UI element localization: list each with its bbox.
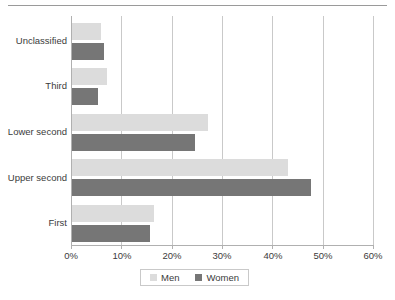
category-axis-labels: Unclassified Third Lower second Upper se… [0,16,67,245]
bar-women-third [72,88,98,105]
category-label-lower-second: Lower second [1,126,67,137]
tick-label-40: 40% [256,250,290,261]
bar-women-unclassified [72,43,104,60]
category-label-unclassified: Unclassified [1,35,67,46]
bar-men-first [72,205,154,222]
bar-chart-figure: Unclassified Third Lower second Upper se… [0,0,395,300]
tick-label-0: 0% [54,250,88,261]
tick-label-60: 60% [356,250,390,261]
tick-label-10: 10% [105,250,139,261]
gridline-40 [272,16,273,245]
legend-swatch-women-icon [195,274,202,281]
bar-women-first [72,225,150,242]
tick-mark-40 [272,245,273,249]
legend-label-women: Women [206,272,239,283]
plot-area [71,16,374,245]
bar-men-lower-second [72,114,208,131]
category-label-upper-second: Upper second [1,172,67,183]
tick-mark-20 [172,245,173,249]
bar-men-third [72,68,107,85]
gridline-50 [323,16,324,245]
tick-label-20: 20% [155,250,189,261]
bar-women-lower-second [72,134,195,151]
gridline-30 [222,16,223,245]
bar-men-upper-second [72,159,288,176]
gridline-60 [373,16,374,245]
legend-item-women: Women [195,272,239,283]
category-label-third: Third [1,80,67,91]
legend-swatch-men-icon [150,274,157,281]
bar-men-unclassified [72,23,101,40]
tick-mark-50 [323,245,324,249]
legend-item-men: Men [150,272,179,283]
bar-women-upper-second [72,179,311,196]
tick-label-50: 50% [306,250,340,261]
chart-legend: Men Women [140,269,249,286]
legend-label-men: Men [161,272,179,283]
header-divider [8,5,387,6]
category-label-first: First [1,217,67,228]
tick-mark-30 [222,245,223,249]
tick-mark-10 [121,245,122,249]
tick-mark-0 [71,245,72,249]
tick-label-30: 30% [205,250,239,261]
tick-mark-60 [373,245,374,249]
